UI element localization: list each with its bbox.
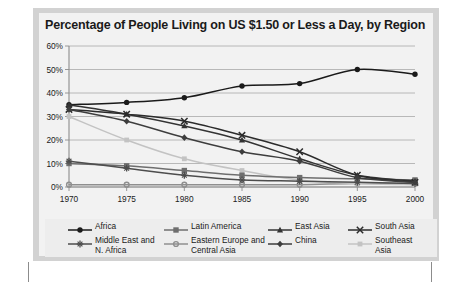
crop-tick-right	[431, 262, 432, 282]
legend-marker-circle-open-icon	[163, 236, 189, 248]
legend-label: East Asia	[293, 222, 330, 232]
legend-label: Southeast Asia	[373, 236, 412, 255]
legend-label: Middle East and N. Africa	[93, 236, 155, 255]
legend-item-eastern-europe-central-asia[interactable]: Eastern Europe and Central Asia	[163, 236, 265, 250]
data-point-marker	[66, 158, 72, 165]
legend-marker-triangle-icon	[267, 222, 293, 234]
legend-item-africa[interactable]: Africa	[67, 222, 116, 236]
data-point-marker	[355, 67, 360, 72]
data-point-marker	[124, 138, 129, 143]
data-point-marker	[182, 95, 187, 100]
legend-marker-diamond-icon	[267, 236, 293, 248]
data-point-marker	[239, 83, 244, 88]
y-axis-tick-label: 20%	[46, 135, 63, 145]
chart-screenshot: Percentage of People Living on US $1.50 …	[0, 0, 457, 283]
data-point-marker	[412, 72, 417, 77]
legend-item-middle-east-n-africa[interactable]: Middle East and N. Africa	[67, 236, 155, 250]
data-point-marker	[240, 168, 245, 173]
crop-tick-left	[28, 262, 29, 282]
x-axis-tick-label: 1990	[290, 194, 309, 204]
legend-item-east-asia[interactable]: East Asia	[267, 222, 330, 236]
chart-title: Percentage of People Living on US $1.50 …	[45, 18, 430, 38]
legend-label: Africa	[93, 222, 116, 232]
data-point-marker	[123, 165, 129, 172]
legend-marker-asterisk-icon	[67, 236, 93, 248]
x-axis-tick-label: 1980	[175, 194, 194, 204]
legend-label: Eastern Europe and Central Asia	[189, 236, 265, 255]
legend-label: China	[293, 236, 317, 246]
x-axis-tick-label: 1975	[117, 194, 136, 204]
data-point-marker	[181, 172, 187, 179]
legend-item-china[interactable]: China	[267, 236, 317, 250]
data-point-marker	[239, 148, 245, 155]
chart-legend: Africa Latin America East Asia South Asi…	[45, 219, 437, 257]
legend-item-south-asia[interactable]: South Asia	[347, 222, 415, 236]
legend-marker-square-icon	[163, 222, 189, 234]
y-axis-tick-label: 40%	[46, 88, 63, 98]
data-point-marker	[182, 156, 187, 161]
data-point-marker	[277, 241, 283, 248]
legend-item-latin-america[interactable]: Latin America	[163, 222, 241, 236]
data-point-marker	[297, 81, 302, 86]
data-point-marker	[296, 178, 302, 185]
data-point-marker	[173, 227, 178, 232]
data-point-marker	[124, 100, 129, 105]
y-axis-tick-label: 10%	[46, 159, 63, 169]
plot-area: 0%10%20%30%40%50%60%19701975198019851990…	[39, 40, 433, 212]
data-point-marker	[67, 114, 72, 119]
series-africa	[66, 67, 417, 108]
line-chart-svg: 0%10%20%30%40%50%60%19701975198019851990…	[39, 40, 433, 212]
legend-marker-square-light-icon	[347, 236, 373, 248]
legend-row-2: Middle East and N. Africa Eastern Europe…	[45, 236, 437, 250]
y-axis-tick-label: 50%	[46, 65, 63, 75]
data-point-marker	[358, 242, 363, 247]
data-point-marker	[77, 241, 83, 248]
x-axis-tick-label: 1985	[233, 194, 252, 204]
legend-row-1: Africa Latin America East Asia South Asi…	[45, 222, 437, 236]
data-point-marker	[77, 227, 82, 232]
legend-label: South Asia	[373, 222, 415, 232]
legend-marker-circle-icon	[67, 222, 93, 234]
legend-item-southeast-asia[interactable]: Southeast Asia	[347, 236, 412, 250]
y-axis-tick-label: 30%	[46, 112, 63, 122]
legend-label: Latin America	[189, 222, 241, 232]
x-axis-tick-label: 1970	[60, 194, 79, 204]
x-axis-tick-label: 2000	[406, 194, 425, 204]
x-axis-tick-label: 1995	[348, 194, 367, 204]
legend-marker-cross-icon	[347, 222, 373, 234]
y-axis-tick-label: 0%	[51, 182, 64, 192]
data-point-marker	[124, 118, 130, 125]
data-point-marker	[239, 177, 245, 184]
y-axis-tick-label: 60%	[46, 41, 63, 51]
